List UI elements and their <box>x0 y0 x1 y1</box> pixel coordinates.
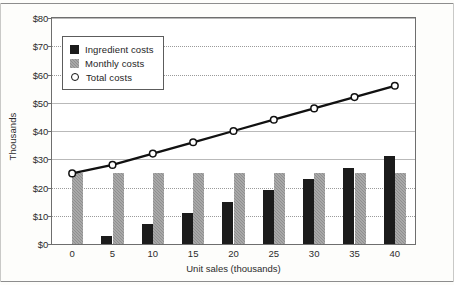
x-tick-label: 20 <box>228 248 239 259</box>
x-tick-label: 30 <box>309 248 320 259</box>
y-tick-label: $60 <box>33 69 48 80</box>
y-tick-label: $0 <box>38 239 48 250</box>
total-costs-marker-25 <box>271 116 278 123</box>
y-tick-label: $20 <box>33 182 48 193</box>
x-tick-label: 15 <box>188 248 199 259</box>
x-tick-label: 40 <box>390 248 401 259</box>
y-axis-title: Thousands <box>7 87 18 187</box>
page-rule-top <box>0 3 454 4</box>
legend-label-total: Total costs <box>86 72 132 83</box>
total-costs-marker-15 <box>190 139 197 146</box>
x-axis-tick-labels: 0510152025303540 <box>51 248 416 262</box>
total-costs-marker-10 <box>150 150 157 157</box>
legend-item-monthly-costs: Monthly costs <box>70 56 154 70</box>
chart-figure: $0$10$20$30$40$50$60$70$80 Thousands Ing… <box>0 0 454 285</box>
y-tick-mark-0 <box>48 244 52 245</box>
y-tick-label: $70 <box>33 41 48 52</box>
total-costs-marker-40 <box>392 83 399 90</box>
x-tick-label: 5 <box>110 248 115 259</box>
y-tick-label: $30 <box>33 154 48 165</box>
page-rule-bottom <box>0 281 454 282</box>
legend-item-total-costs: Total costs <box>70 70 154 84</box>
total-costs-marker-5 <box>109 162 116 169</box>
total-costs-marker-30 <box>311 105 318 112</box>
chart-legend: Ingredient costs Monthly costs Total cos… <box>62 36 164 90</box>
x-tick-label: 25 <box>269 248 280 259</box>
y-tick-label: $10 <box>33 210 48 221</box>
x-axis-title: Unit sales (thousands) <box>51 263 416 274</box>
total-costs-marker-35 <box>351 94 358 101</box>
legend-swatch-icon-ingredient <box>70 45 79 54</box>
legend-label-monthly: Monthly costs <box>85 58 144 69</box>
y-tick-label: $40 <box>33 126 48 137</box>
legend-swatch-icon-monthly <box>70 59 79 68</box>
x-tick-label: 10 <box>148 248 159 259</box>
total-costs-marker-20 <box>230 128 237 135</box>
legend-item-ingredient-costs: Ingredient costs <box>70 42 154 56</box>
legend-label-ingredient: Ingredient costs <box>85 44 154 55</box>
plot-area: Ingredient costs Monthly costs Total cos… <box>51 17 416 245</box>
total-costs-marker-0 <box>69 170 76 177</box>
legend-swatch-icon-total <box>71 73 79 81</box>
y-tick-label: $50 <box>33 97 48 108</box>
x-tick-label: 0 <box>70 248 75 259</box>
x-tick-label: 35 <box>349 248 360 259</box>
y-tick-label: $80 <box>33 13 48 24</box>
